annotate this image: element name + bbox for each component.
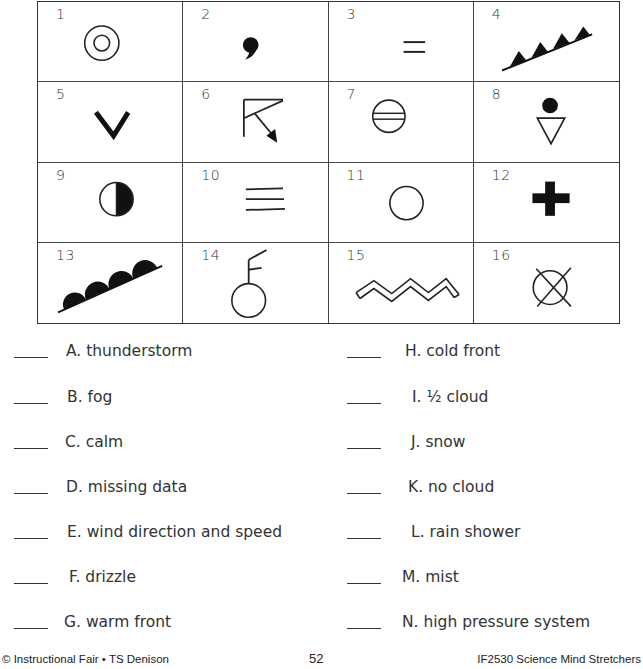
wind-barb-arrow-icon — [183, 82, 327, 161]
answer-blank[interactable] — [14, 583, 48, 584]
item-letter: J. — [411, 433, 421, 451]
symbol-cell-16: 16 — [474, 243, 619, 323]
answer-blank[interactable] — [347, 583, 381, 584]
item-text: warm front — [86, 613, 171, 631]
cold-front-triangles-icon — [474, 2, 619, 81]
item-text: wind direction and speed — [87, 523, 282, 541]
circle-with-wind-barb-icon — [183, 243, 327, 323]
answer-blank[interactable] — [347, 448, 381, 449]
double-zigzag-icon — [329, 243, 473, 323]
warm-front-semicircles-icon — [38, 243, 182, 323]
item-letter: L. — [411, 523, 425, 541]
book-title: IF2530 Science Mind Stretchers — [477, 653, 641, 665]
symbol-cell-1: 1 — [38, 2, 183, 82]
item-letter: K. — [408, 478, 423, 496]
answer-blank[interactable] — [14, 493, 48, 494]
item-letter: G. — [64, 613, 81, 631]
answer-blank[interactable] — [14, 538, 48, 539]
answer-blank[interactable] — [14, 448, 48, 449]
item-text: no cloud — [428, 478, 494, 496]
item-text: missing data — [88, 478, 187, 496]
copyright-text: © Instructional Fair • TS Denison — [2, 653, 169, 665]
answer-blank[interactable] — [347, 403, 381, 404]
answer-blank[interactable] — [347, 628, 381, 629]
item-letter: F. — [69, 568, 80, 586]
circle-x-missing-icon — [474, 243, 619, 323]
answer-blank[interactable] — [14, 403, 48, 404]
item-letter: E. — [67, 523, 82, 541]
item-letter: I. — [412, 388, 422, 406]
dot-over-triangle-icon — [474, 82, 619, 161]
symbol-cell-15: 15 — [329, 243, 474, 323]
symbol-cell-12: 12 — [474, 163, 619, 243]
symbol-cell-11: 11 — [329, 163, 474, 243]
item-text: calm — [86, 433, 123, 451]
item-text: mist — [425, 568, 459, 586]
item-letter: D. — [66, 478, 83, 496]
item-letter: A. — [66, 342, 81, 360]
item-text: snow — [425, 433, 465, 451]
double-circle-icon — [38, 2, 182, 81]
symbol-grid: 1 2 3 4 5 — [37, 1, 620, 324]
item-text: ½ cloud — [426, 388, 488, 406]
symbol-cell-9: 9 — [38, 163, 183, 243]
symbol-cell-14: 14 — [183, 243, 328, 323]
item-text: high pressure system — [423, 613, 590, 631]
symbol-cell-7: 7 — [329, 82, 474, 162]
item-text: fog — [88, 388, 113, 406]
item-letter: N. — [402, 613, 419, 631]
page-number: 52 — [309, 651, 323, 666]
answer-blank[interactable] — [14, 357, 48, 358]
three-lines-fog-icon — [183, 163, 327, 242]
item-letter: B. — [67, 388, 83, 406]
item-text: thunderstorm — [86, 342, 192, 360]
thick-plus-icon — [474, 163, 619, 242]
symbol-cell-6: 6 — [183, 82, 328, 162]
half-filled-circle-icon — [38, 163, 182, 242]
symbol-cell-8: 8 — [474, 82, 619, 162]
symbol-cell-5: 5 — [38, 82, 183, 162]
item-text: cold front — [426, 342, 500, 360]
item-letter: M. — [402, 568, 420, 586]
symbol-cell-10: 10 — [183, 163, 328, 243]
symbol-cell-13: 13 — [38, 243, 183, 323]
answer-blank[interactable] — [347, 493, 381, 494]
symbol-cell-4: 4 — [474, 2, 619, 82]
answer-blank[interactable] — [14, 628, 48, 629]
answer-blank[interactable] — [347, 538, 381, 539]
item-text: drizzle — [85, 568, 136, 586]
v-shape-icon — [38, 82, 182, 161]
circle-double-line-icon — [329, 82, 473, 161]
comma-drizzle-icon — [183, 2, 327, 81]
item-letter: C. — [65, 433, 81, 451]
symbol-cell-3: 3 — [329, 2, 474, 82]
symbol-cell-2: 2 — [183, 2, 328, 82]
item-letter: H. — [405, 342, 421, 360]
empty-circle-icon — [329, 163, 473, 242]
two-lines-mist-icon — [329, 2, 473, 81]
answer-blank[interactable] — [347, 357, 381, 358]
page-footer: © Instructional Fair • TS Denison 52 IF2… — [0, 651, 643, 669]
item-text: rain shower — [430, 523, 521, 541]
